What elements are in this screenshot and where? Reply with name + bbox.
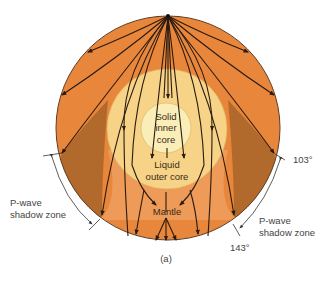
svg-text:shadow zone: shadow zone bbox=[259, 227, 315, 238]
svg-text:shadow zone: shadow zone bbox=[10, 209, 66, 220]
svg-text:Solid: Solid bbox=[155, 111, 176, 122]
figure-caption: (a) bbox=[160, 253, 172, 264]
svg-text:inner: inner bbox=[155, 122, 176, 133]
svg-text:P-wave: P-wave bbox=[259, 215, 291, 226]
svg-text:outer core: outer core bbox=[146, 171, 189, 182]
svg-text:core: core bbox=[157, 134, 175, 145]
mantle-label: Mantle bbox=[153, 206, 182, 217]
angle-103-label: 103° bbox=[293, 154, 313, 165]
p-wave-diagram: Solid inner core Liquid outer core Mantl… bbox=[0, 0, 336, 284]
shadow-zone-left-label: P-wave shadow zone bbox=[10, 197, 66, 220]
inner-core-label: Solid inner core bbox=[155, 111, 176, 145]
shadow-zone-right-label: P-wave shadow zone bbox=[259, 215, 315, 238]
angle-143-label: 143° bbox=[230, 242, 250, 253]
svg-text:P-wave: P-wave bbox=[10, 197, 42, 208]
epicenter-point bbox=[166, 14, 170, 18]
svg-text:Liquid: Liquid bbox=[154, 159, 179, 170]
